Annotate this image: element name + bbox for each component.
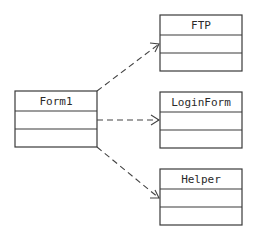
dependency-line	[97, 147, 159, 198]
dependency-line	[97, 44, 159, 91]
dependency-form1-helper[interactable]	[97, 147, 159, 198]
class-ftp[interactable]: FTP	[160, 15, 242, 71]
dependency-form1-ftp[interactable]	[97, 43, 159, 91]
class-helper-name: Helper	[181, 173, 221, 186]
dependency-form1-loginform[interactable]	[97, 115, 159, 125]
class-form1-name: Form1	[39, 95, 72, 108]
class-helper[interactable]: Helper	[160, 169, 242, 225]
class-form1[interactable]: Form1	[15, 91, 97, 147]
class-ftp-name: FTP	[191, 19, 211, 32]
class-diagram: Form1 FTP LoginForm Helper	[0, 0, 253, 237]
class-loginform[interactable]: LoginForm	[160, 92, 242, 148]
class-loginform-name: LoginForm	[171, 96, 231, 109]
